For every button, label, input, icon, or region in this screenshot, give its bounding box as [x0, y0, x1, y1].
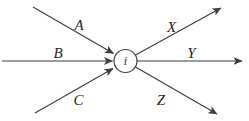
- edge-A-label: A: [73, 17, 84, 33]
- edge-Z-label: Z: [157, 92, 166, 108]
- edge-Z-outgoing-arrow: [136, 67, 218, 114]
- node-layer: i: [114, 50, 137, 73]
- node-link-diagram: ABCXYZ i: [0, 0, 249, 121]
- edge-C-label: C: [73, 92, 84, 108]
- node-label: i: [124, 54, 127, 68]
- edge-X-outgoing-arrow: [136, 8, 222, 55]
- edge-X-label: X: [166, 19, 177, 35]
- edge-A-incoming-arrow: [33, 7, 114, 54]
- edge-Y-label: Y: [187, 45, 197, 61]
- edge-B-label: B: [53, 45, 62, 61]
- diagram-svg: ABCXYZ i: [0, 0, 249, 121]
